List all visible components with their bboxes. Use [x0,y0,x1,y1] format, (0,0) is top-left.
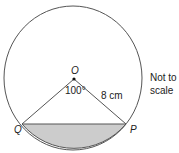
point-q-label: Q [14,124,22,135]
center-point [72,77,75,80]
note-not-to: Not to [150,72,177,83]
shaded-segment [22,124,126,148]
center-label: O [71,65,79,76]
note-scale: scale [150,85,173,96]
point-p-label: P [130,124,137,135]
angle-label: 100° [65,85,86,96]
radius-label: 8 cm [101,90,123,101]
